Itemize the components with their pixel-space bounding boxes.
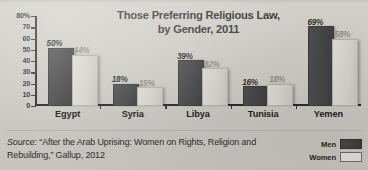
bar-libya-women: 32%: [202, 68, 228, 106]
chart-title-line-2: by Gender, 2011: [96, 23, 301, 37]
data-label-tunisia-women: 18%: [269, 75, 285, 83]
scan-edge-artifact: [0, 0, 368, 3]
chart-figure: Those Preferring Religious Law, by Gende…: [0, 0, 368, 170]
y-axis-tick-label: 50: [22, 46, 30, 53]
source-note: Source: “After the Arab Uprising: Women …: [7, 136, 277, 161]
x-axis-label-syria: Syria: [122, 109, 144, 119]
data-label-libya-men: 39%: [177, 52, 193, 60]
bar-tunisia-men: 16%: [243, 86, 269, 106]
bar-tunisia-women: 18%: [267, 84, 293, 106]
bar-yemen-women: 58%: [332, 39, 358, 106]
bar-syria-men: 18%: [113, 84, 139, 106]
bar-egypt-men: 50%: [48, 48, 74, 106]
data-label-libya-women: 32%: [204, 60, 220, 68]
bar-group-yemen: 69%58%Yemen: [296, 16, 361, 106]
x-axis-tick: [165, 106, 166, 109]
bar-libya-men: 39%: [178, 60, 204, 106]
bar-syria-women: 15%: [137, 87, 163, 106]
x-axis-tick: [231, 106, 232, 109]
data-label-egypt-women: 44%: [74, 46, 90, 54]
footer-divider: [7, 130, 361, 131]
legend-item-women: Women: [309, 152, 362, 162]
data-label-yemen-men: 69%: [307, 18, 323, 26]
bar-egypt-women: 44%: [72, 55, 98, 107]
data-label-syria-men: 18%: [112, 75, 128, 83]
legend-label-women: Women: [309, 153, 336, 162]
source-prefix: Source:: [7, 137, 37, 147]
x-axis-label-yemen: Yemen: [314, 109, 343, 119]
legend-swatch-women-icon: [340, 152, 362, 162]
y-axis-tick-label: 80%: [16, 12, 30, 19]
y-axis-tick-label: 30: [22, 69, 30, 76]
x-axis-label-tunisia: Tunisia: [248, 109, 279, 119]
y-axis-tick-label: 40: [22, 57, 30, 64]
x-axis-label-egypt: Egypt: [55, 109, 80, 119]
bar-yemen-men: 69%: [308, 26, 334, 106]
y-axis-tick-label: 20: [22, 80, 30, 87]
legend-swatch-men-icon: [340, 139, 362, 149]
data-label-yemen-women: 58%: [334, 30, 350, 38]
y-axis-tick-label: 60: [22, 35, 30, 42]
x-axis-tick: [296, 106, 297, 109]
x-axis-label-libya: Libya: [186, 109, 210, 119]
bar-group-egypt: 50%44%Egypt: [35, 16, 100, 106]
y-axis-tick-label: 10: [22, 91, 30, 98]
source-line-1: “After the Arab Uprising: Women on Right…: [39, 137, 239, 147]
chart-title-line-1: Those Preferring Religious Law,: [96, 9, 301, 23]
y-axis-tick-label: 0: [26, 102, 30, 109]
y-axis-tick: [31, 106, 36, 107]
x-axis-tick: [100, 106, 101, 109]
chart-title: Those Preferring Religious Law, by Gende…: [96, 9, 301, 36]
legend-item-men: Men: [321, 139, 362, 149]
data-label-tunisia-men: 16%: [242, 78, 258, 86]
chart-legend: Men Women: [309, 139, 362, 162]
data-label-egypt-men: 50%: [47, 39, 63, 47]
legend-label-men: Men: [321, 140, 336, 149]
data-label-syria-women: 15%: [139, 79, 155, 87]
y-axis-tick-label: 70: [22, 24, 30, 31]
